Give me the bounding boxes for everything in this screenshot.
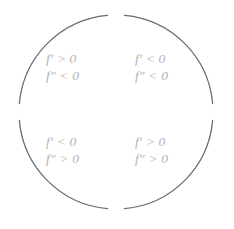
- second-derivative-bottom-right: f″ > 0: [135, 150, 168, 167]
- quadrant-label-bottom-right: f′ > 0 f″ > 0: [135, 133, 168, 167]
- second-derivative-top-right: f″ < 0: [135, 67, 168, 84]
- first-derivative-top-left: f′ > 0: [46, 50, 79, 67]
- quadrant-label-top-left: f′ > 0 f″ < 0: [46, 50, 79, 84]
- circle-arcs-graphic: [0, 0, 234, 229]
- second-derivative-top-left: f″ < 0: [46, 67, 79, 84]
- first-derivative-bottom-left: f′ < 0: [46, 133, 79, 150]
- quadrant-label-top-right: f′ < 0 f″ < 0: [135, 50, 168, 84]
- first-derivative-top-right: f′ < 0: [135, 50, 168, 67]
- first-derivative-bottom-right: f′ > 0: [135, 133, 168, 150]
- quadrant-label-bottom-left: f′ < 0 f″ > 0: [46, 133, 79, 167]
- second-derivative-bottom-left: f″ > 0: [46, 150, 79, 167]
- concavity-diagram: f′ > 0 f″ < 0 f′ < 0 f″ < 0 f′ < 0 f″ > …: [0, 0, 234, 229]
